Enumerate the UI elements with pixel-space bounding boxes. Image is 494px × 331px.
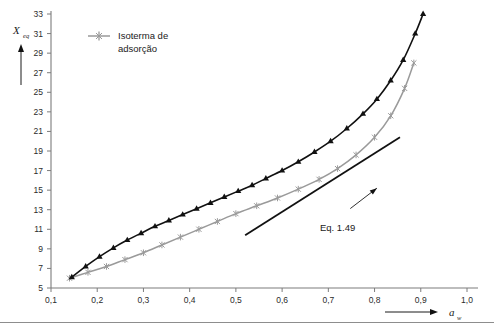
x-axis-ticks: 0,10,20,30,40,50,60,70,80,91,0 [45,288,473,305]
y-tick-label: 25 [34,87,44,97]
x-tick-label: 0,7 [322,295,334,305]
x-tick-label: 0,3 [138,295,150,305]
x-axis-title-text: a [449,306,455,318]
y-tick-label: 27 [34,68,44,78]
x-tick-label: 0,4 [184,295,196,305]
x-tick-label: 0,1 [45,295,57,305]
y-tick-label: 11 [34,224,43,234]
data-point-marker [420,11,426,16]
y-axis-subscript: eq [23,32,30,39]
x-axis-subscript: w [457,314,462,321]
y-tick-label: 31 [34,29,44,39]
chart-figure: 579111315171921232527293133 0,10,20,30,4… [0,0,494,331]
x-tick-label: 0,9 [415,295,427,305]
y-tick-label: 19 [34,146,44,156]
y-tick-label: 29 [34,48,44,58]
y-axis-ticks: 579111315171921232527293133 [34,9,51,293]
x-tick-label: 0,5 [230,295,242,305]
series-line [245,137,400,235]
data-point-marker [412,30,418,35]
annotation-eq149: Eq. 1.49 [320,188,377,233]
y-tick-label: 33 [34,9,44,19]
x-tick-label: 0,8 [369,295,381,305]
y-tick-label: 7 [38,263,43,273]
x-tick-label: 1,0 [461,295,473,305]
legend-label-line2: adsorção [118,43,157,54]
y-tick-label: 21 [34,126,44,136]
legend: Isoterma de adsorção [88,30,168,54]
x-axis-arrow-head [430,309,438,315]
series-measured [67,60,417,282]
x-tick-label: 0,2 [91,295,103,305]
legend-label-line1: Isoterma de [118,30,168,41]
footer-divider [0,322,494,323]
series-line [69,63,413,278]
x-tick-label: 0,6 [276,295,288,305]
y-tick-label: 13 [34,205,44,215]
y-axis-arrow-head [18,44,24,52]
y-tick-label: 23 [34,107,44,117]
series-eq [245,137,400,235]
y-axis-title-text: X [12,24,21,36]
y-tick-label: 5 [38,283,43,293]
y-axis-title: X eq [12,24,30,85]
x-axis-title: a w [385,306,462,321]
annotation-label: Eq. 1.49 [320,222,355,233]
annotation-arrow-head [370,188,377,194]
y-tick-label: 17 [34,166,44,176]
adsorption-isotherm-plot: 579111315171921232527293133 0,10,20,30,4… [0,0,494,331]
y-tick-label: 15 [34,185,44,195]
y-tick-label: 9 [38,244,43,254]
